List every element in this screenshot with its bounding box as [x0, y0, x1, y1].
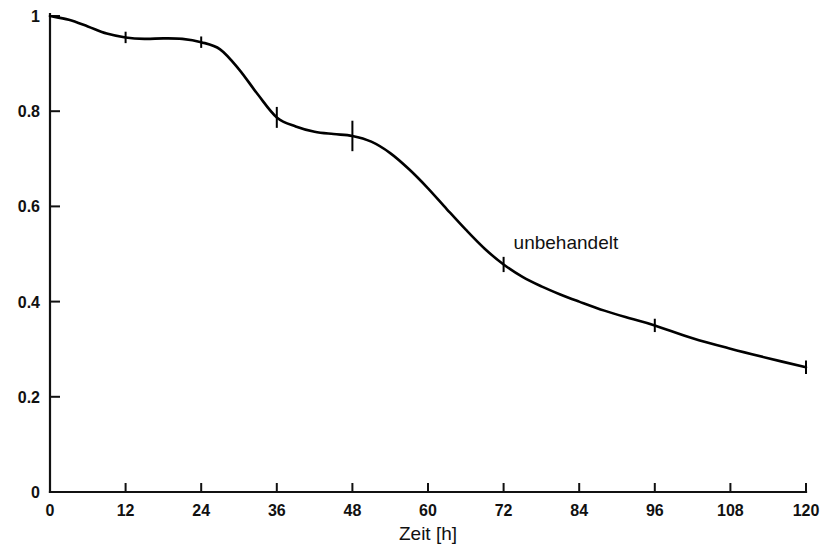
y-tick-label-0.2: 0.2 [18, 389, 40, 406]
y-tick-label-0.4: 0.4 [18, 294, 40, 311]
data-curve-unbehandelt [50, 16, 806, 367]
y-tick-label-0.8: 0.8 [18, 103, 40, 120]
y-tick-label-0: 0 [31, 484, 40, 501]
x-axis-title: Zeit [h] [399, 523, 457, 544]
series-annotation-unbehandelt: unbehandelt [514, 232, 619, 253]
x-tick-label-12: 12 [117, 502, 135, 519]
x-tick-label-36: 36 [268, 502, 286, 519]
y-tick-label-0.6: 0.6 [18, 198, 40, 215]
y-axis-ticks [50, 16, 60, 492]
x-tick-label-0: 0 [46, 502, 55, 519]
line-chart: 01224364860728496108120 00.20.40.60.81 u… [0, 0, 832, 556]
x-tick-label-48: 48 [344, 502, 362, 519]
x-tick-label-96: 96 [646, 502, 664, 519]
x-tick-label-120: 120 [793, 502, 820, 519]
data-series-group [50, 16, 806, 374]
x-axis-ticks [50, 483, 806, 492]
x-tick-label-24: 24 [192, 502, 210, 519]
chart-figure: 01224364860728496108120 00.20.40.60.81 u… [0, 0, 832, 556]
x-tick-label-108: 108 [717, 502, 744, 519]
error-bars-unbehandelt [126, 32, 806, 374]
x-axis-tick-labels: 01224364860728496108120 [46, 502, 820, 519]
y-tick-label-1: 1 [31, 8, 40, 25]
axes [50, 14, 806, 492]
x-tick-label-84: 84 [570, 502, 588, 519]
x-tick-label-60: 60 [419, 502, 437, 519]
y-axis-tick-labels: 00.20.40.60.81 [18, 8, 40, 501]
x-tick-label-72: 72 [495, 502, 513, 519]
